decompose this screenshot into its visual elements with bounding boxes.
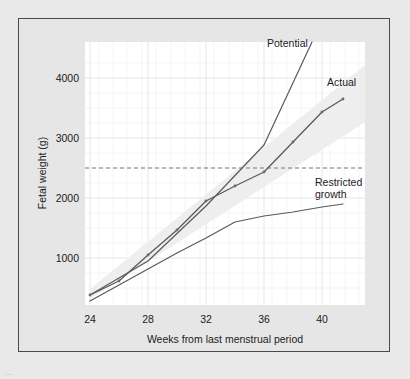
x-tick-label-36: 36	[258, 313, 270, 325]
y-tick-label-4000: 4000	[56, 72, 80, 84]
x-tick-label-24: 24	[84, 313, 96, 325]
y-tick-label-1000: 1000	[56, 252, 80, 264]
series-label-restricted: Restricted	[315, 176, 362, 188]
series-label-potential: Potential	[267, 37, 308, 49]
x-tick-label-40: 40	[316, 313, 328, 325]
fetal-growth-chart: Potential Actual Restricted growth 4000 …	[0, 0, 410, 379]
figure-caption: …	[4, 367, 13, 378]
series-label-actual: Actual	[327, 76, 356, 88]
y-axis-title: Fetal weight (g)	[36, 137, 48, 209]
y-tick-label-3000: 3000	[56, 132, 80, 144]
series-label-restricted-growth-line2: growth	[315, 188, 347, 200]
x-tick-label-32: 32	[200, 313, 212, 325]
x-tick-label-28: 28	[142, 313, 154, 325]
y-tick-label-2000: 2000	[56, 192, 80, 204]
x-axis-title: Weeks from last menstrual period	[147, 333, 303, 345]
